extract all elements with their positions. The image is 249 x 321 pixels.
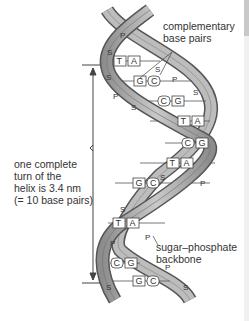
- svg-text:P: P: [113, 92, 118, 101]
- svg-text:S: S: [193, 88, 198, 97]
- svg-text:P: P: [200, 179, 205, 188]
- svg-text:G: G: [136, 178, 143, 188]
- svg-text:G: G: [199, 138, 206, 148]
- svg-text:S: S: [120, 205, 125, 214]
- svg-text:C: C: [114, 258, 121, 268]
- svg-text:S: S: [106, 283, 111, 292]
- label-sugar-phosphate-backbone: sugar–phosphate backbone: [156, 241, 237, 265]
- svg-text:P: P: [110, 239, 115, 248]
- svg-text:G: G: [128, 258, 135, 268]
- scrollbar-thumb[interactable]: [244, 0, 249, 36]
- svg-text:P: P: [120, 31, 125, 40]
- svg-text:T: T: [117, 56, 123, 66]
- dna-diagram: TA GC CG TA CG TA GC TA CG GC P S S P S …: [0, 0, 249, 321]
- svg-text:P: P: [172, 75, 177, 84]
- svg-text:A: A: [131, 56, 137, 66]
- svg-text:A: A: [184, 158, 190, 168]
- svg-text:C: C: [150, 276, 157, 286]
- scrollbar-track[interactable]: [244, 0, 249, 321]
- svg-text:A: A: [130, 218, 136, 228]
- svg-text:S: S: [155, 65, 160, 74]
- svg-text:S: S: [106, 73, 111, 82]
- svg-text:G: G: [137, 76, 144, 86]
- svg-text:S: S: [183, 283, 188, 292]
- svg-text:C: C: [151, 76, 158, 86]
- svg-text:C: C: [161, 96, 168, 106]
- label-helix-turn: one complete turn of the helix is 3.4 nm…: [14, 158, 93, 206]
- svg-text:S: S: [131, 103, 136, 112]
- svg-text:G: G: [136, 276, 143, 286]
- svg-text:S: S: [107, 48, 112, 57]
- label-complementary-base-pairs: complementary base pairs: [163, 20, 235, 44]
- svg-text:A: A: [195, 116, 201, 126]
- svg-text:G: G: [175, 96, 182, 106]
- svg-text:P: P: [145, 233, 150, 242]
- svg-text:T: T: [181, 116, 187, 126]
- svg-text:T: T: [170, 158, 176, 168]
- svg-text:C: C: [185, 138, 192, 148]
- svg-text:C: C: [150, 178, 157, 188]
- svg-text:T: T: [116, 218, 122, 228]
- svg-text:S: S: [160, 173, 165, 182]
